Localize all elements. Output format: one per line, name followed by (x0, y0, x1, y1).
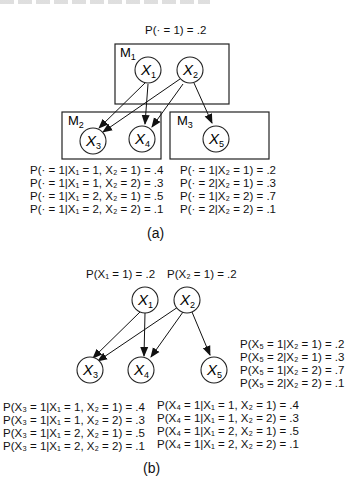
cpt-x3-row: P(X₃ = 1|X₁ = 2, X₂ = 1) = .5 (3, 427, 145, 440)
cpt-m2-row: P(· = 1|X₁ = 2, X₂ = 1) = .5 (30, 190, 163, 203)
node-x1: X1 (135, 57, 161, 83)
cpt-x5-row: P(X₅ = 1|X₂ = 1) = .2 (240, 338, 344, 351)
caption-a: (a) (147, 225, 164, 241)
cpt-m3-row: P(· = 1|X₂ = 1) = .2 (180, 164, 276, 177)
panel-a: M1 M2 M3 X1 X2 X3 X4 X5 (62, 44, 269, 159)
cpt-m3-row: P(· = 2|X₂ = 1) = .3 (180, 177, 276, 190)
node-b-x4: X4 (128, 357, 154, 383)
prior-label-a: P(· = 1) = .2 (145, 24, 206, 37)
node-x5: X5 (203, 126, 229, 152)
cpt-m3-row: P(· = 1|X₂ = 2) = .7 (180, 190, 276, 203)
node-x3: X3 (80, 128, 106, 154)
cpt-x4-row: P(X₄ = 1|X₁ = 1, X₂ = 2) = .3 (157, 412, 299, 425)
node-b-x3: X3 (77, 357, 103, 383)
cpt-m2-row: P(· = 1|X₁ = 2, X₂ = 2) = .1 (30, 203, 163, 216)
cpt-x5-row: P(X₅ = 2|X₂ = 1) = .3 (240, 351, 344, 364)
cpt-x4-row: P(X₄ = 1|X₁ = 2, X₂ = 2) = .1 (157, 438, 299, 451)
node-x4: X4 (129, 126, 155, 152)
edge-x1-x3 (99, 82, 146, 128)
node-b-x5: X5 (201, 357, 227, 383)
cpt-m2-row: P(· = 1|X₁ = 1, X₂ = 2) = .3 (30, 177, 163, 190)
module-m1-label: M1 (120, 45, 136, 62)
module-m3-label: M3 (177, 113, 193, 130)
module-m2-label: M2 (68, 113, 84, 130)
cpt-x4-row: P(X₄ = 1|X₁ = 1, X₂ = 1) = .4 (157, 399, 299, 412)
edge-b-x2-x5 (192, 312, 210, 355)
edge-b-x2-x3 (98, 307, 178, 361)
caption-b: (b) (143, 460, 160, 476)
cpt-x3-row: P(X₃ = 1|X₁ = 2, X₂ = 2) = .1 (3, 440, 145, 453)
prior-label-x1: P(X₁ = 1) = .2 (86, 268, 155, 281)
node-b-x1: X1 (132, 287, 158, 313)
cpt-m3-row: P(· = 2|X₂ = 2) = .1 (180, 203, 276, 216)
panel-b: X1 X2 X3 X4 X5 (77, 287, 227, 383)
cpt-x5-row: P(X₅ = 1|X₂ = 2) = .7 (240, 364, 344, 377)
edge-b-x1-x3 (93, 311, 141, 358)
prior-label-x2: P(X₂ = 1) = .2 (167, 268, 237, 281)
node-b-x2: X2 (174, 287, 200, 313)
cpt-x5-row: P(X₅ = 2|X₂ = 2) = .1 (240, 377, 344, 390)
cpt-m2-row: P(· = 1|X₁ = 1, X₂ = 1) = .4 (30, 164, 163, 177)
edge-x2-x5 (194, 83, 212, 123)
cpt-x3-row: P(X₃ = 1|X₁ = 1, X₂ = 2) = .3 (3, 414, 145, 427)
cpt-x3-row: P(X₃ = 1|X₁ = 1, X₂ = 1) = .4 (3, 401, 145, 414)
cpt-x4-row: P(X₄ = 1|X₁ = 2, X₂ = 1) = .5 (157, 425, 299, 438)
edge-b-x1-x4 (144, 313, 145, 356)
edge-b-x2-x4 (151, 312, 183, 357)
node-x2: X2 (177, 57, 203, 83)
